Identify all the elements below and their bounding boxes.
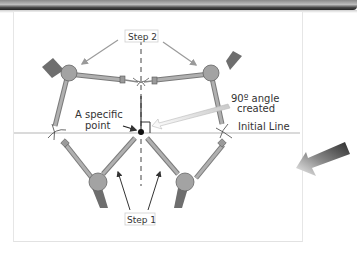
step2-arrow-right — [163, 42, 196, 65]
angle-label-line2: created — [237, 103, 275, 114]
initial-line-label: Initial Line — [238, 121, 290, 132]
step2-arrow-left — [82, 40, 118, 64]
compass-bottom-right — [147, 138, 226, 208]
specific-point-arrow — [123, 126, 136, 130]
compass-top-right — [144, 51, 242, 124]
compass-bottom-left — [61, 138, 135, 208]
specific-point-label-line2: point — [85, 120, 111, 131]
perpendicular-construction-diagram: Step 2 Step 1 A specific point 90º angle… — [0, 0, 357, 260]
arrow-down-left-icon — [296, 142, 350, 176]
step2-label: Step 2 — [128, 32, 157, 42]
specific-point — [138, 129, 144, 135]
step1-arrow-left — [118, 172, 130, 210]
step1-label: Step 1 — [127, 215, 156, 225]
arc-crossing-right — [216, 124, 232, 138]
specific-point-label-line1: A specific — [75, 109, 123, 120]
step1-arrow-right — [148, 172, 160, 210]
